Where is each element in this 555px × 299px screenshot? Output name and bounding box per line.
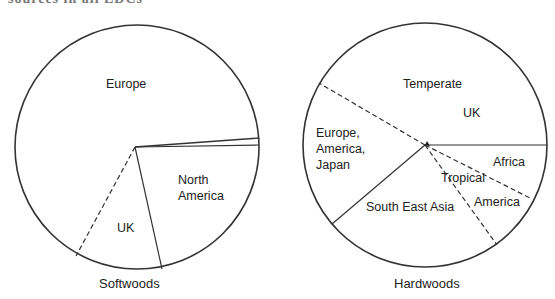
label-america: America <box>178 189 224 203</box>
softwoods-divider-uk-europe <box>76 147 135 256</box>
label-america-tropical: America <box>474 195 520 209</box>
label-temperate: Temperate <box>403 77 462 91</box>
label-america-comma: America, <box>316 142 365 156</box>
caption-softwoods: Softwoods <box>99 276 160 291</box>
label-uk: UK <box>117 221 135 235</box>
label-japan: Japan <box>316 158 350 172</box>
softwoods-divider-na-uk <box>135 147 162 269</box>
caption-hardwoods: Hardwoods <box>394 276 460 291</box>
label-north: North <box>178 173 209 187</box>
label-europe: Europe <box>106 77 146 91</box>
label-tropical: Tropical <box>441 171 485 185</box>
label-uk-hard: UK <box>463 106 481 120</box>
softwoods-pie <box>15 25 259 269</box>
label-south-east-asia: South East Asia <box>366 200 454 214</box>
hardwoods-labels: Temperate UK Europe, America, Japan Afri… <box>316 77 525 291</box>
softwoods-labels: Europe North America UK Softwoods <box>99 77 224 291</box>
label-europe-comma: Europe, <box>316 126 360 140</box>
label-africa: Africa <box>493 155 525 169</box>
pie-charts: Europe North America UK Softwoods Temper… <box>0 0 555 299</box>
